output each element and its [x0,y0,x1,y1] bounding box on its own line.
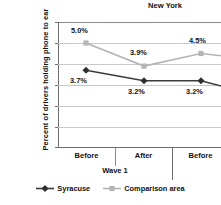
comparison-legend-swatch-icon [103,184,121,193]
comparison-marker-3 [198,51,203,56]
comparison-value-label-1: 5.0% [71,26,88,35]
comparison-value-label-2: 3.9% [130,48,147,57]
syracuse-value-label-1: 3.7% [70,76,87,85]
x-group-label-wave1: Wave 1 [58,166,172,175]
syracuse-marker-1 [83,67,90,74]
chart-legend: Syracuse Comparison area [0,184,221,193]
syracuse-marker-2 [141,77,148,84]
syracuse-value-label-2: 3.2% [128,87,145,96]
y-axis-title: Percent of drivers holding phone to ear [41,0,50,185]
x-tick-label-after-w1: After [115,151,172,160]
comparison-value-label-3: 4.5% [189,36,206,45]
syracuse-legend-swatch-icon [36,184,54,193]
syracuse-marker-3 [198,77,205,84]
legend-item-syracuse[interactable]: Syracuse [36,184,90,193]
x-tick-label-before-w1: Before [58,151,115,160]
legend-item-comparison-area[interactable]: Comparison area [103,184,184,193]
chart-title: New York [110,1,220,10]
chart-container: Percent of drivers holding phone to ear … [0,0,221,205]
comparison-marker-2 [141,64,146,69]
x-axis-band: Before After Before Wave 1 [58,148,221,180]
legend-label-syracuse: Syracuse [57,184,90,193]
comparison-marker-1 [83,40,88,45]
plot-area: 5.0% 3.9% 4.5% 3.7% 3.2% 3.2% [58,22,221,148]
x-tick-label-before-w2: Before [172,151,221,160]
syracuse-value-label-3: 3.2% [186,87,203,96]
legend-label-comparison-area: Comparison area [124,184,184,193]
